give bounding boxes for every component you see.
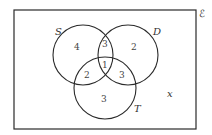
region-d-only: 2 [131,42,137,52]
set-s-circle [53,25,113,85]
region-s-and-d: 3 [102,39,108,49]
region-t-only: 3 [101,94,107,104]
region-s-only: 4 [74,42,80,52]
region-s-and-t: 2 [84,70,90,80]
region-d-and-t: 3 [119,70,125,80]
set-d-circle [98,25,158,85]
set-t-label: T [134,103,142,114]
region-outside: x [167,88,173,99]
set-d-label: D [152,26,161,37]
venn-diagram: ℰ S D T 4 3 2 2 1 3 3 x [0,0,212,135]
region-s-d-t: 1 [102,60,108,70]
universal-set-label: ℰ [199,8,205,19]
set-s-label: S [55,26,62,37]
